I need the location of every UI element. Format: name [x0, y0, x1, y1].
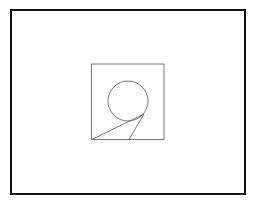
inner-square: [92, 64, 165, 140]
outer-frame: [11, 10, 245, 194]
diagram-canvas: [0, 0, 256, 204]
